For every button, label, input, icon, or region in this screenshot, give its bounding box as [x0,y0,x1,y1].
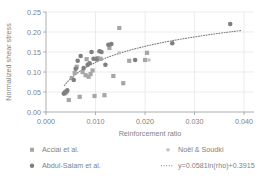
data-point-circle [87,61,92,66]
chart-legend: Acciai et al.Noël & SoudkiAbdul-Salam et… [30,145,255,170]
data-point-square [88,72,92,76]
data-point-square-small [118,51,121,54]
y-tick-label: 0.20 [27,28,41,37]
data-point-circle [73,67,78,72]
data-point-square [145,51,149,55]
data-point-square [78,95,82,99]
data-point-circle [89,50,94,55]
axis-tickmarks [43,12,244,115]
data-point-square-small [148,59,151,62]
legend-item: Abdul-Salam et al. [30,161,101,170]
legend-item-label: y=0.0581ln(rho)+0.3915 [178,161,255,170]
data-point-square [121,81,125,85]
y-tick-label: 0.10 [27,68,41,77]
y-tick-label: 0.05 [27,88,41,97]
data-point-circle [228,22,233,27]
legend-item-label: Acciai et al. [42,145,79,154]
square-small-marker-icon [167,148,170,151]
x-axis-title: Reinforcement ratio [119,129,182,138]
legend-item-label: Abdul-Salam et al. [42,161,101,170]
data-point-circle [99,50,104,55]
legend-item: Acciai et al. [30,145,79,154]
data-point-circle [170,41,175,46]
data-points [62,22,233,102]
data-point-circle [65,88,70,93]
data-point-square [85,57,89,61]
chart-container: 0.000.050.100.150.200.25 0.0000.0100.020… [0,0,260,188]
data-point-circle [81,66,86,71]
trendline-path [64,31,241,86]
data-point-square [111,74,115,78]
y-tick-label: 0.25 [27,8,41,17]
y-axis-tick-labels: 0.000.050.100.150.200.25 [27,8,41,117]
data-point-square [102,93,106,97]
data-point-circle [103,63,108,68]
data-point-circle [75,59,80,64]
data-point-circle [94,57,99,62]
data-point-square [98,57,102,61]
data-point-circle [71,78,76,83]
x-tick-label: 0.000 [37,117,55,126]
y-tick-label: 0.00 [27,108,41,117]
data-point-square [92,94,96,98]
data-point-square [127,59,131,63]
circle-marker-icon [30,164,34,168]
x-axis-tick-labels: 0.0000.0100.0200.0300.040 [37,117,253,126]
data-point-circle [109,42,114,47]
x-tick-label: 0.010 [87,117,105,126]
scatter-chart: 0.000.050.100.150.200.25 0.0000.0100.020… [0,0,260,188]
legend-item: Noël & Soudki [167,145,224,154]
data-point-square [90,68,94,72]
square-marker-icon [30,148,34,152]
data-point-square [73,71,77,75]
data-point-square [117,26,121,30]
legend-item: y=0.0581ln(rho)+0.3915 [161,161,255,170]
trendline [64,31,241,86]
x-tick-label: 0.020 [136,117,154,126]
legend-item-label: Noël & Soudki [178,145,224,154]
x-tick-label: 0.030 [186,117,204,126]
data-point-square [67,98,71,102]
y-tick-label: 0.15 [27,48,41,57]
data-point-circle [133,58,138,63]
x-tick-label: 0.040 [235,117,253,126]
data-point-circle [78,54,83,59]
data-point-square [143,58,147,62]
y-axis-title: Normalized shear stress [4,23,13,101]
